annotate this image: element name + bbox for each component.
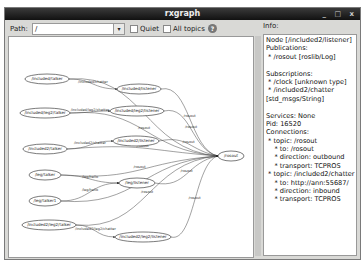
info-line: * topic: /included2/chatter — [266, 170, 354, 178]
node-label: /included/leg2/talker — [24, 110, 65, 115]
path-label: Path: — [10, 22, 28, 36]
maximize-icon[interactable]: □ — [334, 10, 344, 18]
info-line: * /rosout [roslib/Log] — [266, 53, 354, 61]
info-text-panel[interactable]: Node [/included2/listener]Publications: … — [263, 34, 357, 256]
node-label: /included/listener — [122, 86, 157, 91]
info-line: * /included2/chatter — [266, 86, 354, 94]
info-line: * direction: outbound — [266, 153, 354, 161]
rxgraph-window: rxgraph _ □ x Path: / ▾ Quiet All topics… — [4, 7, 361, 260]
edge-label: /rosout — [183, 114, 196, 118]
info-line: [std_msgs/String] — [266, 95, 354, 103]
info-line: * to: /rosout — [266, 145, 354, 153]
graph-node[interactable]: /leg/listener — [119, 178, 155, 188]
edge-label: /rosout — [141, 190, 154, 194]
toolbar: Path: / ▾ Quiet All topics ? — [8, 22, 258, 36]
info-line: Connections: — [266, 128, 354, 136]
close-icon[interactable]: x — [349, 10, 357, 18]
info-label: Info: — [263, 22, 279, 30]
edge-label: /included2/leg2/chatter — [75, 227, 116, 231]
window-title: rxgraph — [165, 9, 201, 18]
graph-node[interactable]: /rosout — [218, 151, 244, 161]
all-topics-label[interactable]: All topics — [173, 22, 205, 36]
node-label: /leg/talker1 — [34, 198, 57, 203]
info-line: Services: None — [266, 112, 354, 120]
all-topics-checkbox[interactable] — [163, 25, 171, 33]
info-line: * transport: TCPROS — [266, 162, 354, 170]
graph-node[interactable]: /included/talker — [25, 74, 69, 84]
edge-label: /rosout — [133, 165, 146, 169]
edge-label: /rosout — [180, 169, 193, 173]
node-label: /included/leg2/listener — [115, 108, 160, 113]
graph-edge[interactable] — [161, 89, 218, 156]
node-label: /included2/leg2/talker — [27, 222, 71, 227]
graph-node[interactable]: /included2/listener — [113, 136, 159, 146]
graph-node[interactable]: /included/leg2/listener — [110, 106, 164, 116]
graph-node[interactable]: /included/leg2/talker — [20, 108, 70, 118]
splitter-handle[interactable] — [255, 36, 261, 256]
node-label: /included2/talker — [28, 146, 62, 151]
node-graph[interactable]: /included/chatter/rosout/rosout/included… — [9, 37, 253, 257]
info-line: Pid: 16520 — [266, 120, 354, 128]
info-line: * /clock [unknown type] — [266, 78, 354, 86]
info-line: * direction: inbound — [266, 187, 354, 195]
graph-node[interactable]: /included2/leg2/talker — [22, 220, 76, 230]
node-label: /leg/listener — [125, 180, 149, 185]
info-line: Node [/included2/listener] — [266, 36, 354, 44]
quiet-checkbox[interactable] — [130, 25, 138, 33]
graph-node[interactable]: /included2/talker — [23, 144, 67, 154]
info-line: * transport: TCPROS — [266, 195, 354, 203]
edge-label: /included/leg2/chatter — [71, 108, 110, 112]
minimize-icon[interactable]: _ — [322, 10, 329, 18]
node-label: /included/talker — [31, 76, 62, 81]
help-icon[interactable]: ? — [208, 24, 217, 33]
title-bar[interactable]: rxgraph _ □ x — [5, 8, 360, 20]
edge-label: /rosout — [185, 125, 198, 129]
info-line: * topic: /rosout — [266, 137, 354, 145]
info-line: Publications: — [266, 44, 354, 52]
edge-label: /leg/hello — [82, 188, 98, 192]
edge-label: /included2/chatter — [74, 141, 107, 145]
info-line: Subscriptions: — [266, 70, 354, 78]
graph-edge[interactable] — [70, 112, 218, 156]
window-controls: _ □ x — [322, 8, 357, 20]
edge-label: /rosout — [182, 140, 195, 144]
node-label: /leg/talker — [35, 172, 56, 177]
quiet-label[interactable]: Quiet — [140, 22, 159, 36]
edge-label: /leg/hello — [82, 175, 98, 179]
node-label: /rosout — [224, 153, 238, 158]
graph-edge[interactable] — [61, 183, 119, 201]
node-label: /included2/listener — [117, 138, 155, 143]
path-combobox-input[interactable]: / — [32, 23, 114, 35]
chevron-down-icon[interactable]: ▾ — [113, 23, 125, 35]
graph-node[interactable]: /included/listener — [117, 84, 161, 94]
node-label: /included2/leg2/listener — [119, 234, 167, 239]
graph-node[interactable]: /included2/leg2/listener — [115, 232, 171, 242]
info-line — [266, 61, 354, 69]
edge-label: /rosout — [138, 126, 151, 130]
info-line — [266, 103, 354, 111]
edge-label: /rosout — [188, 196, 201, 200]
graph-node[interactable]: /leg/talker — [29, 170, 61, 180]
info-line: * to: http://ann:55687/ — [266, 179, 354, 187]
graph-canvas[interactable]: /included/chatter/rosout/rosout/included… — [8, 36, 254, 258]
graph-node[interactable]: /leg/talker1 — [29, 196, 61, 206]
